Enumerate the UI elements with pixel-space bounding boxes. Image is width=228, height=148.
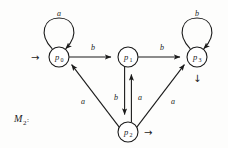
self-loop-p3-path — [182, 18, 212, 49]
state-p2-sublabel: 2 — [130, 132, 133, 138]
machine-name: M 2 : — [13, 113, 29, 127]
machine-name-main: M — [13, 113, 23, 124]
state-p0-sublabel: 0 — [61, 57, 64, 63]
transition-p2-to-p0: a — [72, 65, 120, 128]
transition-p1-to-p3-label: b — [160, 43, 164, 52]
transition-p2-to-p1: a — [131, 75, 142, 122]
state-p0-label: p — [54, 52, 59, 62]
state-p3-label: p — [192, 52, 197, 62]
transition-p2-to-p0-label: a — [81, 97, 85, 106]
transition-p1-to-p2: b — [114, 67, 125, 114]
state-diagram: a b b b b a a — [0, 0, 228, 148]
transition-p2-to-p3-label: a — [171, 97, 175, 106]
state-p1[interactable]: p 1 — [118, 47, 138, 67]
state-p2-label: p — [123, 127, 128, 137]
self-loop-p0: a — [44, 9, 74, 49]
self-loop-p3: b — [182, 9, 212, 49]
state-p3-sublabel: 3 — [199, 57, 202, 63]
state-p3[interactable]: p 3 — [187, 47, 207, 67]
transition-p2-to-p3-path — [137, 65, 185, 128]
transition-p1-to-p3: b — [138, 43, 180, 57]
self-loop-p3-label: b — [195, 9, 199, 18]
machine-name-colon: : — [27, 116, 29, 124]
state-p1-label: p — [123, 52, 128, 62]
transition-p2-to-p3: a — [137, 65, 185, 128]
transition-p2-to-p0-path — [72, 65, 120, 128]
self-loop-p0-label: a — [57, 9, 61, 18]
state-p0[interactable]: p 0 — [49, 47, 69, 67]
automaton-figure: a b b b b a a — [0, 0, 228, 148]
arrow-down-icon: ↓ — [193, 73, 201, 84]
transition-p2-to-p1-label: a — [138, 93, 142, 102]
start-arrow-icon: → — [31, 52, 39, 63]
self-loop-p0-path — [44, 18, 74, 49]
transition-p0-to-p1-label: b — [91, 43, 95, 52]
arrow-right-icon: → — [144, 127, 152, 138]
state-p1-sublabel: 1 — [130, 57, 133, 63]
state-p2[interactable]: p 2 — [118, 122, 138, 142]
transition-p1-to-p2-label: b — [114, 93, 118, 102]
transition-p0-to-p1: b — [69, 43, 111, 57]
